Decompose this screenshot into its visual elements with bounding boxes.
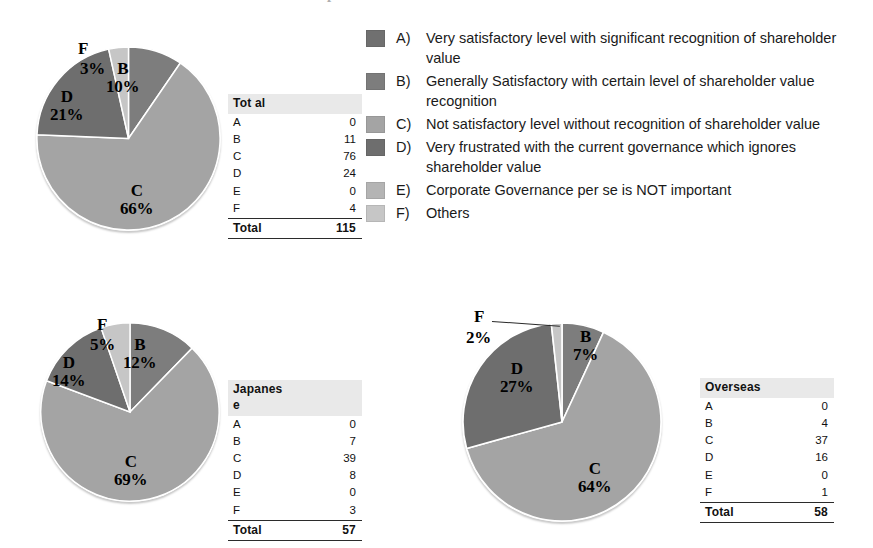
- table-japanese-header-label: Japanes e: [228, 380, 297, 416]
- table-total-header-blank: [297, 94, 362, 114]
- pie-total-label-c: C 66%: [120, 182, 153, 219]
- legend-swatch-f-icon: [366, 205, 385, 222]
- pie-overseas-label-b: B 7%: [573, 328, 598, 365]
- legend-key-f: F): [396, 203, 426, 223]
- table-row: B11: [228, 131, 362, 148]
- legend-text-d: Very frustrated with the current governa…: [426, 137, 846, 177]
- legend-item-a: A) Very satisfactory level with signific…: [366, 28, 866, 68]
- table-japanese-sum-row: Total57: [228, 520, 362, 540]
- pie-overseas-label-f-letter: F: [474, 308, 484, 326]
- pie-japanese-label-b: B 12%: [123, 336, 156, 373]
- table-overseas-header-label: Overseas: [700, 378, 769, 398]
- table-overseas-value-a: 0: [769, 398, 834, 415]
- pie-overseas-label-c: C 64%: [578, 460, 611, 497]
- table-row: D8: [228, 467, 362, 484]
- table-total-value-a: 0: [297, 114, 362, 131]
- legend-item-d: D) Very frustrated with the current gove…: [366, 137, 866, 177]
- table-row: F4: [228, 200, 362, 219]
- table-row: A0: [228, 416, 362, 433]
- table-japanese-key-e: E: [228, 484, 297, 501]
- pie-japanese-label-f-pct: 5%: [90, 336, 115, 354]
- table-total-value-e: 0: [297, 183, 362, 200]
- table-total-key-b: B: [228, 131, 297, 148]
- legend: A) Very satisfactory level with signific…: [366, 28, 866, 226]
- legend-key-b: B): [396, 71, 426, 91]
- legend-text-a: Very satisfactory level with significant…: [426, 28, 846, 68]
- pie-japanese-label-c: C 69%: [114, 453, 147, 490]
- legend-swatch-c-icon: [366, 116, 385, 133]
- data-table-overseas: Overseas A0 B4 C37 D16 E0 F1 Total58: [700, 378, 834, 523]
- table-total-value-d: 24: [297, 165, 362, 182]
- table-total-value-f: 4: [297, 200, 362, 219]
- table-japanese-value-e: 0: [297, 484, 362, 501]
- pie-chart-overseas: F 2% B 7% D 27% C 64%: [430, 296, 690, 548]
- table-japanese-key-f: F: [228, 502, 297, 521]
- table-total-key-f: F: [228, 200, 297, 219]
- table-overseas-key-f: F: [700, 484, 769, 503]
- legend-item-c: C) Not satisfactory level without recogn…: [366, 114, 866, 134]
- table-total-value-c: 76: [297, 148, 362, 165]
- table-overseas-header-row: Overseas: [700, 378, 834, 398]
- pie-overseas-label-d: D 27%: [500, 360, 533, 397]
- legend-key-a: A): [396, 28, 426, 48]
- table-row: E0: [228, 183, 362, 200]
- legend-item-e: E) Corporate Governance per se is NOT im…: [366, 180, 866, 200]
- table-japanese-key-b: B: [228, 433, 297, 450]
- table-overseas-value-c: 37: [769, 432, 834, 449]
- table-japanese-key-d: D: [228, 467, 297, 484]
- table-overseas-sum-label: Total: [700, 502, 769, 522]
- table-row: C39: [228, 450, 362, 467]
- legend-key-c: C): [396, 114, 426, 134]
- table-row: C76: [228, 148, 362, 165]
- table-total-header-label: Tot al: [228, 94, 297, 114]
- pie-japanese-label-d: D 14%: [52, 354, 85, 391]
- table-total-key-a: A: [228, 114, 297, 131]
- legend-swatch-e-icon: [366, 182, 385, 199]
- table-japanese-key-a: A: [228, 416, 297, 433]
- legend-swatch-d-icon: [366, 139, 385, 156]
- legend-key-d: D): [396, 137, 426, 157]
- pie-overseas-graphic: [462, 322, 662, 522]
- data-table-japanese: Japanes e A0 B7 C39 D8 E0 F3 Total57: [228, 380, 362, 541]
- table-total-key-c: C: [228, 148, 297, 165]
- legend-text-f: Others: [426, 203, 470, 223]
- figure-title: C. Evaluation of Japanese investors: [196, 0, 616, 2]
- table-japanese-value-c: 39: [297, 450, 362, 467]
- table-overseas-key-d: D: [700, 449, 769, 466]
- pie-total-label-f-letter: F: [78, 40, 88, 58]
- pie-chart-total: F 3% B 10% D 21% C 66%: [0, 0, 240, 280]
- table-total-sum-row: Total115: [228, 218, 362, 238]
- table-row: B7: [228, 433, 362, 450]
- legend-item-b: B) Generally Satisfactory with certain l…: [366, 71, 866, 111]
- table-japanese-header-blank: [297, 380, 362, 416]
- legend-swatch-a-icon: [366, 30, 385, 47]
- table-japanese-sum-label: Total: [228, 520, 297, 540]
- table-row: D24: [228, 165, 362, 182]
- table-overseas-sum-row: Total58: [700, 502, 834, 522]
- table-row: E0: [228, 484, 362, 501]
- table-overseas-sum-value: 58: [769, 502, 834, 522]
- table-japanese-value-d: 8: [297, 467, 362, 484]
- table-overseas-value-d: 16: [769, 449, 834, 466]
- table-row: E0: [700, 467, 834, 484]
- table-overseas-key-b: B: [700, 415, 769, 432]
- legend-text-e: Corporate Governance per se is NOT impor…: [426, 180, 731, 200]
- table-total-value-b: 11: [297, 131, 362, 148]
- pie-overseas-label-f-pct: 2%: [466, 329, 491, 347]
- table-total-sum-value: 115: [297, 218, 362, 238]
- table-row: C37: [700, 432, 834, 449]
- table-japanese-value-b: 7: [297, 433, 362, 450]
- table-total-sum-label: Total: [228, 218, 297, 238]
- data-table-total: Tot al A0 B11 C76 D24 E0 F4 Total115: [228, 94, 362, 239]
- legend-item-f: F) Others: [366, 203, 866, 223]
- table-total-header-row: Tot al: [228, 94, 362, 114]
- table-overseas-value-e: 0: [769, 467, 834, 484]
- table-overseas-value-f: 1: [769, 484, 834, 503]
- table-row: F3: [228, 502, 362, 521]
- pie-total-label-b: B 10%: [106, 60, 139, 97]
- pie-total-label-d: D 21%: [50, 88, 83, 125]
- table-japanese-value-a: 0: [297, 416, 362, 433]
- table-overseas-key-a: A: [700, 398, 769, 415]
- legend-key-e: E): [396, 180, 426, 200]
- legend-swatch-b-icon: [366, 73, 385, 90]
